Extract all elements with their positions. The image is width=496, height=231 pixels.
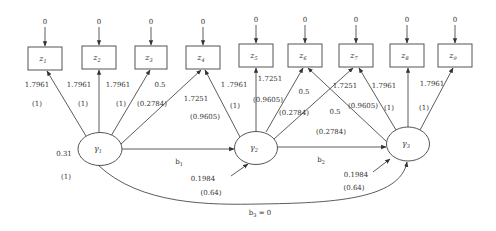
loading-g3-z7-std: (1) bbox=[384, 104, 394, 112]
observed-z2: z2 bbox=[82, 46, 116, 69]
error-z8: 0 bbox=[405, 16, 409, 24]
loading-g1-z1-std: (1) bbox=[32, 100, 42, 108]
variance-g1-std: (1) bbox=[61, 173, 71, 181]
loading-g1-z3-std: (1) bbox=[116, 100, 126, 108]
error-z7: 0 bbox=[354, 16, 358, 24]
path-b2: b2 bbox=[317, 156, 325, 165]
variance-g1: 0.31 bbox=[56, 150, 72, 158]
loading-g2-z5: 1.7251 bbox=[258, 75, 283, 83]
error-z4: 0 bbox=[201, 18, 205, 26]
loading-g3-z7: 1.7961 bbox=[372, 82, 397, 90]
disturbance-g2-std: (0.64) bbox=[200, 189, 221, 197]
error-z2: 0 bbox=[97, 18, 101, 26]
observed-z9: z9 bbox=[438, 44, 472, 67]
loading-g2-z4b: 1 .7961 bbox=[221, 81, 248, 89]
loading-g1-z4: 0.5 bbox=[154, 81, 165, 89]
error-labels: 0 0 0 0 0 0 0 0 0 bbox=[43, 16, 457, 26]
loading-g1-z4-std: (0.2784) bbox=[137, 100, 167, 108]
loading-g2-z6-std: (0.2784) bbox=[279, 109, 309, 117]
observed-z5: z5 bbox=[239, 44, 273, 67]
observed-z8: z8 bbox=[390, 44, 424, 67]
loading-g2-z4b-std: (1) bbox=[230, 102, 240, 110]
observed-variables: z1 z2 z3 z4 z5 z6 z7 z8 bbox=[28, 44, 472, 70]
error-arrows bbox=[45, 25, 455, 46]
path-b1: b1 bbox=[175, 158, 183, 167]
error-z3: 0 bbox=[149, 18, 153, 26]
loading-g2-z5-std: (0.9605) bbox=[253, 96, 283, 104]
latent-gamma1: γ1 bbox=[78, 133, 122, 166]
observed-z1: z1 bbox=[28, 47, 62, 70]
loading-g3-z6: 0.5 bbox=[329, 108, 340, 116]
error-z5: 0 bbox=[254, 16, 258, 24]
latent-gamma2: γ2 bbox=[235, 132, 278, 165]
error-z6: 0 bbox=[303, 16, 307, 24]
loading-g1-z3: 1.7961 bbox=[106, 81, 131, 89]
observed-z3: z3 bbox=[135, 46, 167, 69]
disturbance-g3-std: (0.64) bbox=[343, 184, 364, 192]
observed-z6: z6 bbox=[288, 44, 322, 67]
sem-path-diagram: 0 0 0 0 0 0 0 0 0 bbox=[0, 0, 496, 231]
loading-g2-z6: 0.5 bbox=[298, 88, 309, 96]
error-z1: 0 bbox=[43, 18, 47, 26]
loading-g2-z7: 1.7251 bbox=[333, 82, 358, 90]
path-b3: b3 = 0 bbox=[249, 209, 271, 218]
loading-g2-z4: 1.7251 bbox=[184, 95, 209, 103]
loading-g3-z8: 1.7961 bbox=[420, 80, 445, 88]
error-z9: 0 bbox=[453, 16, 457, 24]
loading-g2-z4-std: (0.9605) bbox=[190, 113, 220, 121]
disturbance-g2: 0.1984 bbox=[191, 175, 216, 183]
disturbance-g3: 0.1984 bbox=[344, 171, 369, 179]
structural-labels: b1 b2 b3 = 0 bbox=[175, 156, 325, 218]
loading-g1-z2: 1.7961 bbox=[67, 81, 92, 89]
loading-g1-z2-std: (1) bbox=[78, 100, 88, 108]
observed-z4: z4 bbox=[186, 46, 220, 69]
loading-g1-z1: 1.7961 bbox=[25, 81, 50, 89]
loading-g3-z7b-std: (0.9605) bbox=[348, 102, 378, 110]
loading-g3-z8-std: (1) bbox=[419, 104, 429, 112]
latent-gamma3: γ3 bbox=[387, 127, 430, 161]
loading-g3-z6-std: (0.2784) bbox=[316, 128, 346, 136]
observed-z7: z7 bbox=[339, 44, 373, 67]
